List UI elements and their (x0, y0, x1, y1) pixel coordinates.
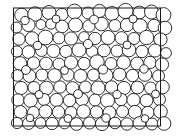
packed-disc (88, 69, 100, 81)
packed-disc (14, 81, 27, 94)
packed-disc (105, 7, 119, 21)
packed-disc (129, 15, 137, 23)
packed-disc (14, 106, 27, 119)
packed-disc (131, 81, 144, 94)
packed-disc (84, 117, 96, 129)
packed-disc (33, 41, 41, 49)
packed-disc (113, 68, 126, 81)
packed-disc (36, 20, 46, 30)
packed-disc (117, 56, 131, 70)
packed-disc (54, 81, 66, 93)
packed-disc (11, 22, 22, 33)
packed-disc (127, 93, 140, 106)
packed-disc (52, 106, 64, 118)
packed-disc (50, 93, 63, 106)
packed-disc (69, 18, 83, 32)
packed-disc (90, 106, 102, 118)
packed-disc (101, 31, 115, 45)
circle-packing-figure (0, 0, 179, 139)
packed-disc (157, 117, 171, 131)
packed-disc (47, 44, 60, 57)
packed-disc (139, 30, 153, 44)
packed-disc (121, 118, 133, 130)
packed-disc (78, 57, 90, 69)
packed-disc (26, 114, 34, 122)
packed-disc (61, 67, 69, 75)
packed-disc (91, 81, 105, 95)
packed-disc (89, 94, 101, 106)
packed-disc (98, 65, 107, 74)
packed-disc (64, 115, 72, 123)
packed-disc (53, 32, 65, 44)
packed-disc (64, 32, 77, 45)
packed-disc (111, 45, 123, 57)
packed-disc (148, 44, 161, 57)
packed-disc (102, 114, 110, 122)
packed-disc (83, 39, 92, 48)
packed-disc (109, 20, 121, 32)
packed-disc (136, 45, 148, 57)
packed-disc (156, 8, 171, 23)
packed-disc (40, 57, 53, 70)
packed-disc (13, 33, 25, 45)
packed-disc (101, 94, 115, 108)
packed-disc (123, 41, 131, 49)
packed-disc (141, 115, 149, 123)
packed-disc (74, 90, 83, 99)
packed-disc (21, 16, 29, 24)
packed-disc (52, 15, 60, 23)
packed-disc (39, 105, 52, 118)
packed-disc (140, 65, 148, 73)
packed-disc (35, 91, 43, 99)
packed-disc (155, 58, 168, 71)
circle-packing-canvas (0, 0, 179, 139)
packed-disc (46, 117, 58, 129)
packed-disc (113, 90, 121, 98)
packed-disc (36, 69, 48, 81)
packed-disc (35, 118, 46, 129)
packed-disc (117, 106, 129, 118)
packed-disc (140, 94, 153, 107)
packed-disc (109, 117, 121, 129)
packed-disc (152, 90, 160, 98)
packed-disc (90, 15, 99, 24)
packed-disc (77, 105, 91, 119)
packed-disc (67, 4, 82, 19)
packed-disc (48, 69, 62, 83)
packed-disc (161, 48, 172, 59)
packed-disc (22, 66, 31, 75)
packed-disc (126, 69, 138, 81)
